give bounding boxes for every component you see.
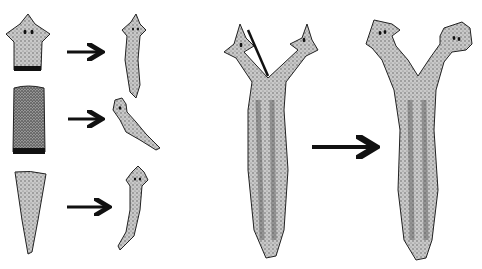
- split-head-worm: [224, 24, 318, 258]
- regenerated-worm-2: [113, 98, 160, 150]
- middle-fragment: [13, 86, 45, 154]
- head-fragment: [6, 14, 50, 71]
- two-headed-worm: [366, 20, 472, 260]
- regenerated-worm-1: [122, 14, 146, 98]
- regenerated-worm-3: [118, 166, 148, 250]
- tail-fragment: [15, 171, 46, 254]
- planarian-regeneration-diagram: [0, 0, 482, 269]
